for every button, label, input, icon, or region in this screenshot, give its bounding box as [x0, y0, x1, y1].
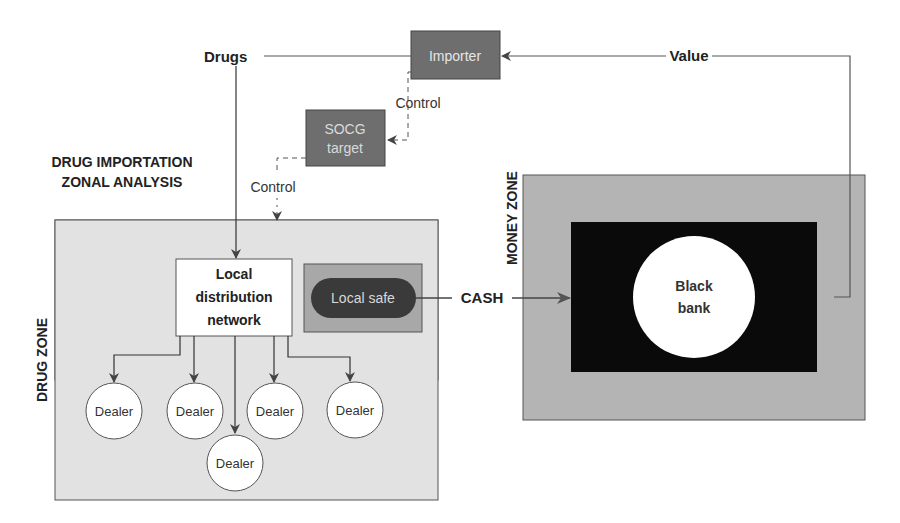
- black-bank-label-line1: Black: [675, 278, 713, 294]
- black-bank-node[interactable]: [633, 236, 755, 358]
- socg-target-node[interactable]: [306, 110, 385, 166]
- value-label: Value: [669, 47, 708, 64]
- dealer-label-3: Dealer: [256, 404, 295, 419]
- control-edge-2: [277, 158, 306, 172]
- drug-zone-label: DRUG ZONE: [34, 318, 50, 402]
- network-label-line2: distribution: [196, 289, 273, 305]
- dealer-label-5: Dealer: [216, 456, 255, 471]
- control-label-2: Control: [250, 179, 295, 195]
- importer-label: Importer: [429, 48, 481, 64]
- diagram-canvas: Drugs Value Importer SOCG target Control…: [0, 0, 900, 523]
- local-safe-label: Local safe: [331, 290, 395, 306]
- money-zone-label: MONEY ZONE: [504, 171, 520, 265]
- dealer-label-1: Dealer: [95, 404, 134, 419]
- socg-label-line2: target: [327, 140, 363, 156]
- black-bank-label-line2: bank: [678, 300, 711, 316]
- title-line-1: DRUG IMPORTATION: [51, 154, 192, 170]
- network-label-line3: network: [207, 312, 261, 328]
- drugs-label: Drugs: [204, 48, 247, 65]
- control-label-1: Control: [395, 95, 440, 111]
- dealer-label-4: Dealer: [336, 403, 375, 418]
- dealer-label-2: Dealer: [176, 404, 215, 419]
- title-line-2: ZONAL ANALYSIS: [62, 174, 183, 190]
- socg-label-line1: SOCG: [324, 121, 365, 137]
- cash-label: CASH: [461, 289, 504, 306]
- network-label-line1: Local: [216, 266, 253, 282]
